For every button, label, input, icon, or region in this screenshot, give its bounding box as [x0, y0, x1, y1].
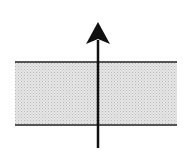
diagram-canvas: [0, 0, 196, 166]
shaded-layer: [15, 62, 177, 125]
diagram-svg: [0, 0, 196, 166]
